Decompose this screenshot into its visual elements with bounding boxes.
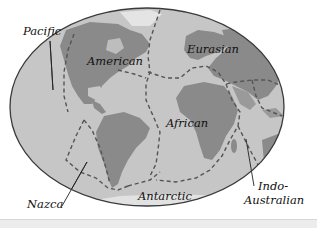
madagascar [231,139,237,153]
label-antarctic: Antarctic [138,191,192,203]
label-american: American [87,56,143,68]
australia-landmass [262,134,288,166]
label-eurasian: Eurasian [187,44,239,56]
label-pacific: Pacific [23,26,61,38]
label-australian: Australian [244,195,304,207]
world-map: Pacific American Eurasian African Nazca … [0,0,317,218]
label-nazca: Nazca [27,199,63,211]
bottom-divider [0,219,317,228]
label-african: African [166,118,208,130]
label-indo: Indo- [258,181,288,193]
